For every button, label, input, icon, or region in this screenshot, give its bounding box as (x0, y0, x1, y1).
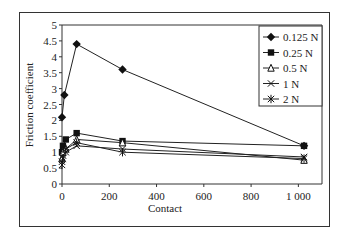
legend-label: 2 N (283, 93, 299, 105)
x-tick-label: 1 000 (286, 190, 311, 202)
y-tick-label: 3.5 (43, 67, 57, 79)
y-tick-label: 2.5 (43, 99, 57, 111)
legend-label: 1 N (283, 78, 299, 90)
x-tick-label: 200 (101, 190, 118, 202)
legend-label: 0.5 N (283, 62, 308, 74)
x-axis-title: Contact (148, 202, 182, 214)
y-tick-label: 5 (52, 19, 58, 31)
legend-label: 0.25 N (283, 47, 313, 59)
x-tick-label: 400 (148, 190, 165, 202)
legend-label: 0.125 N (283, 31, 319, 43)
y-tick-label: 2 (52, 114, 58, 126)
series-0_5-N (59, 136, 307, 164)
y-tick-label: 4.5 (43, 35, 57, 47)
friction-chart: 00.511.522.533.544.5502004006008001 000 … (0, 0, 350, 240)
y-tick-label: 4 (52, 51, 58, 63)
y-tick-label: 3 (52, 83, 58, 95)
legend: 0.125 N0.25 N0.5 N1 N2 N (259, 26, 322, 106)
x-tick-label: 0 (59, 190, 65, 202)
x-tick-label: 800 (243, 190, 260, 202)
series-1-N (59, 143, 307, 165)
y-tick-label: 0 (52, 178, 58, 190)
y-tick-label: 1 (52, 146, 58, 158)
x-tick-label: 600 (196, 190, 213, 202)
y-axis-title: Friction coefficient (23, 63, 35, 147)
y-tick-label: 0.5 (43, 162, 57, 174)
y-tick-label: 1.5 (43, 130, 57, 142)
